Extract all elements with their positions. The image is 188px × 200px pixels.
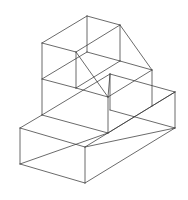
wireframe-edge xyxy=(76,88,108,97)
wireframe-edge xyxy=(76,25,120,52)
wireframe-edge xyxy=(120,61,152,70)
wireframe-edge xyxy=(85,128,175,147)
wireframe-edge xyxy=(20,164,85,183)
wireframe-edge xyxy=(76,61,120,88)
isometric-wireframe-drawing xyxy=(0,0,188,200)
wireframe-edge xyxy=(87,52,120,61)
wireframe-edge xyxy=(42,115,108,133)
wireframe-edge xyxy=(42,16,87,43)
wireframe-edge xyxy=(42,52,87,79)
wireframe-edge xyxy=(42,79,76,88)
wireframe-edges xyxy=(20,16,175,183)
wireframe-edge xyxy=(20,115,42,128)
wireframe-edge xyxy=(42,43,76,52)
wireframe-edge xyxy=(20,133,108,164)
wireframe-edge xyxy=(110,74,175,92)
wireframe-edge xyxy=(87,16,120,25)
wireframe-edge xyxy=(76,52,108,97)
wireframe-edge xyxy=(120,25,152,70)
